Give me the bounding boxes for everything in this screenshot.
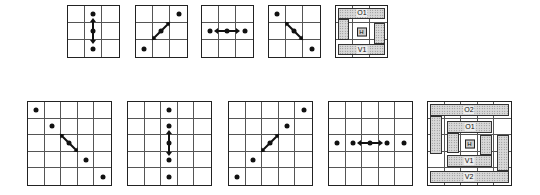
grid-cell (229, 168, 246, 185)
grid-cell (194, 152, 211, 169)
double-arrow-icon (153, 23, 169, 39)
grid-cell (85, 23, 102, 40)
grid-cell (194, 135, 211, 152)
grid-cell (78, 135, 95, 152)
grid-cell (61, 168, 78, 185)
dot-marker (176, 12, 181, 17)
grid-cell (128, 102, 145, 119)
dot-marker (384, 140, 389, 145)
grid-cell (379, 168, 396, 185)
grid-cell (246, 152, 263, 169)
grid-cell (246, 119, 263, 136)
grid-cell (395, 152, 412, 169)
grid-cell (145, 152, 162, 169)
grid-cell (262, 168, 279, 185)
dot-marker (91, 12, 96, 17)
grid-cell (379, 152, 396, 169)
grid-cell (78, 168, 95, 185)
grid-cell (286, 40, 303, 57)
grid-cell (102, 23, 119, 40)
grid-cell (94, 119, 111, 136)
grid-cell (136, 40, 153, 57)
grid-cell (395, 102, 412, 119)
grid-cell (269, 6, 286, 23)
grid-cell (461, 102, 478, 119)
grid-cell (236, 40, 253, 57)
grid-cell (178, 119, 195, 136)
double-arrow-icon (360, 142, 380, 144)
grid-cell (494, 152, 511, 169)
grid-cell (178, 135, 195, 152)
grid-cell (61, 152, 78, 169)
grid-cell (269, 40, 286, 57)
grid-cell (61, 135, 78, 152)
grid-cell (445, 119, 462, 136)
grid-cell (170, 40, 187, 57)
grid-cell (145, 168, 162, 185)
grid-bottom-diagonal-nw (27, 101, 112, 186)
grid-cell (461, 168, 478, 185)
grid-cell (78, 102, 95, 119)
grid-cell (303, 23, 320, 40)
grid-cell (94, 102, 111, 119)
dot-marker (401, 140, 406, 145)
grid-cell (246, 168, 263, 185)
grid-cell (262, 135, 279, 152)
grid-cell (494, 168, 511, 185)
grid-cell (45, 102, 62, 119)
grid-cell (45, 119, 62, 136)
bottom-summary-grid (427, 101, 512, 186)
grid-cell (236, 6, 253, 23)
grid-cell (202, 6, 219, 23)
grid-cell (153, 23, 170, 40)
dot-marker (242, 29, 247, 34)
grid-cell (279, 102, 296, 119)
dot-marker (100, 174, 105, 179)
dot-marker (275, 12, 280, 17)
grid-cell (78, 152, 95, 169)
grid-cell (194, 168, 211, 185)
grid-cell (329, 168, 346, 185)
grid-cell (295, 119, 312, 136)
double-arrow-icon (217, 30, 237, 32)
grid-cell (362, 119, 379, 136)
grid-cell (94, 135, 111, 152)
grid-cell (395, 119, 412, 136)
grid-top-horizontal (201, 5, 254, 58)
grid-cell (494, 119, 511, 136)
dot-marker (166, 124, 171, 129)
top-summary-grid (335, 5, 388, 58)
dot-marker (334, 140, 339, 145)
grid-cell (279, 152, 296, 169)
grid-cell (28, 152, 45, 169)
grid-cell (45, 168, 62, 185)
grid-cell (229, 119, 246, 136)
grid-cell (295, 135, 312, 152)
grid-cell (194, 119, 211, 136)
grid-cell (362, 102, 379, 119)
grid-cell (329, 119, 346, 136)
grid-cell (128, 135, 145, 152)
double-arrow-icon (61, 135, 77, 151)
grid-cell (28, 119, 45, 136)
grid-cell (178, 102, 195, 119)
grid-cell (346, 119, 363, 136)
grid-cell (395, 168, 412, 185)
dot-marker (251, 157, 256, 162)
grid-cell (362, 152, 379, 169)
grid-cell (329, 135, 346, 152)
grid-cell (170, 6, 187, 23)
grid-cell (219, 6, 236, 23)
grid-top-vertical (67, 5, 120, 58)
grid-cell (428, 152, 445, 169)
grid-cell (219, 40, 236, 57)
grid-cell (362, 168, 379, 185)
grid-cell (161, 135, 178, 152)
grid-cell (145, 135, 162, 152)
grid-cell (262, 152, 279, 169)
grid-cell (379, 119, 396, 136)
grid-cell (161, 168, 178, 185)
grid-bottom-diagonal-ne (228, 101, 313, 186)
grid-cell (170, 23, 187, 40)
grid-cell (346, 168, 363, 185)
